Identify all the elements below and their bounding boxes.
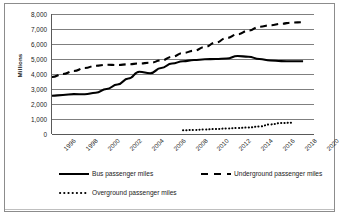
legend-label-underground: Underground passenger miles — [234, 170, 322, 177]
chart-plot-area: Millions 01,0002,0003,0004,0005,0006,000… — [5, 4, 334, 164]
y-tick-label: 0 — [17, 131, 47, 138]
y-tick-label: 3,000 — [17, 86, 47, 93]
x-tick-label: 2014 — [259, 137, 274, 152]
legend-key-dotted-icon — [59, 190, 89, 196]
legend-item-overground[interactable]: Overground passenger miles — [59, 189, 177, 196]
y-tick-label: 2,000 — [17, 101, 47, 108]
y-tick-label: 6,000 — [17, 41, 47, 48]
legend-label-overground: Overground passenger miles — [92, 189, 177, 196]
x-tick-label: 2002 — [128, 137, 143, 152]
x-tick-label: 2012 — [237, 137, 252, 152]
legend-row-1: Bus passenger miles Underground passenge… — [5, 170, 334, 186]
x-axis-tick-labels: 1996199820002002200420062008201020122014… — [51, 134, 314, 164]
y-tick-label: 7,000 — [17, 26, 47, 33]
x-tick-label: 1998 — [84, 137, 99, 152]
legend-item-bus[interactable]: Bus passenger miles — [59, 170, 153, 177]
y-tick-label: 5,000 — [17, 56, 47, 63]
series-line — [52, 22, 303, 77]
legend-row-2: Overground passenger miles — [5, 189, 334, 205]
x-tick-label: 2000 — [106, 137, 121, 152]
y-tick-label: 4,000 — [17, 71, 47, 78]
y-axis-tick-labels: 01,0002,0003,0004,0005,0006,0007,0008,00… — [17, 4, 47, 164]
x-tick-label: 2016 — [281, 137, 296, 152]
y-tick-label: 8,000 — [17, 11, 47, 18]
legend-key-solid-icon — [59, 171, 89, 177]
x-tick-label: 2008 — [194, 137, 209, 152]
series-line — [183, 123, 292, 131]
x-tick-label: 2018 — [303, 137, 318, 152]
series-line — [52, 56, 303, 96]
legend-label-bus: Bus passenger miles — [92, 170, 153, 177]
series-lines — [52, 14, 314, 134]
x-tick-label: 2010 — [216, 137, 231, 152]
legend-divider — [5, 209, 334, 210]
y-tick-label: 1,000 — [17, 116, 47, 123]
legend-key-dashed-icon — [201, 171, 231, 177]
chart-legend: Bus passenger miles Underground passenge… — [5, 164, 334, 211]
x-tick-label: 2006 — [172, 137, 187, 152]
x-tick-label: 1996 — [62, 137, 77, 152]
x-tick-label: 2004 — [150, 137, 165, 152]
plot-canvas — [51, 14, 314, 134]
x-tick-label: 2020 — [325, 137, 340, 152]
legend-item-underground[interactable]: Underground passenger miles — [201, 170, 322, 177]
chart-figure: Millions 01,0002,0003,0004,0005,0006,000… — [4, 3, 335, 212]
